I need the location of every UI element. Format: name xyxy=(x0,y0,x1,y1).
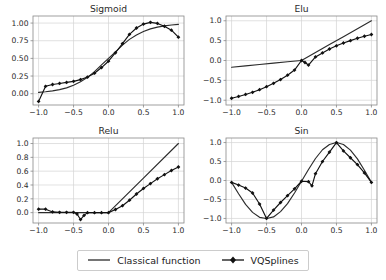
x-tick-label: 0.5 xyxy=(137,226,149,235)
x-tick-label: −1.0 xyxy=(29,108,48,117)
legend-label-classical: Classical function xyxy=(117,255,200,266)
y-tick-label: 0.00 xyxy=(12,89,29,98)
legend-line-marker-icon xyxy=(221,255,245,265)
legend-entry-classical: Classical function xyxy=(87,255,200,266)
y-tick-label: 0.0 xyxy=(209,56,221,65)
subplot-sigmoid: −1.0−0.50.00.51.00.000.250.500.751.00Sig… xyxy=(0,0,193,122)
y-tick-label: 0.0 xyxy=(209,176,221,185)
x-tick-label: 1.0 xyxy=(365,108,377,117)
x-tick-label: 0.0 xyxy=(295,226,307,235)
y-tick-label: 0.5 xyxy=(209,157,221,166)
x-tick-label: −1.0 xyxy=(29,226,48,235)
y-tick-label: 0.25 xyxy=(12,72,29,81)
subplot-title: Relu xyxy=(99,125,119,136)
y-tick-label: 0.75 xyxy=(12,36,29,45)
x-tick-label: 1.0 xyxy=(172,108,184,117)
y-tick-label: 1.0 xyxy=(16,139,28,148)
x-tick-label: −1.0 xyxy=(222,108,241,117)
x-tick-label: 1.0 xyxy=(365,226,377,235)
x-tick-label: −0.5 xyxy=(257,226,276,235)
y-tick-label: 0.8 xyxy=(16,153,28,162)
figure-legend: Classical function VQSplines xyxy=(0,240,386,280)
subplot-title: Elu xyxy=(294,3,308,14)
y-tick-label: 0.0 xyxy=(16,208,28,217)
x-tick-label: 0.5 xyxy=(330,226,342,235)
y-tick-label: 0.6 xyxy=(16,167,28,176)
legend-box: Classical function VQSplines xyxy=(77,250,308,271)
subplot-title: Sigmoid xyxy=(90,3,127,14)
legend-entry-vqsplines: VQSplines xyxy=(221,255,299,266)
subplot-grid: −1.0−0.50.00.51.00.000.250.500.751.00Sig… xyxy=(0,0,386,240)
y-tick-label: 0.5 xyxy=(209,36,221,45)
subplot-sin: −1.0−0.50.00.51.0−1.0−0.50.00.51.0Sin xyxy=(193,122,386,240)
y-tick-label: −1.0 xyxy=(203,214,222,223)
y-tick-label: 1.0 xyxy=(209,138,221,147)
legend-line-icon xyxy=(87,255,111,265)
x-tick-label: −0.5 xyxy=(64,226,83,235)
y-tick-label: 0.2 xyxy=(16,195,28,204)
y-tick-label: 1.00 xyxy=(12,19,29,28)
x-tick-label: 0.5 xyxy=(137,108,149,117)
x-tick-label: −1.0 xyxy=(222,226,241,235)
legend-label-vqsplines: VQSplines xyxy=(251,255,299,266)
y-tick-label: 0.50 xyxy=(12,54,29,63)
subplot-title: Sin xyxy=(294,125,308,136)
figure-canvas: −1.0−0.50.00.51.00.000.250.500.751.00Sig… xyxy=(0,0,386,280)
x-tick-label: 0.0 xyxy=(295,108,307,117)
x-tick-label: 0.0 xyxy=(102,226,114,235)
y-tick-label: 1.0 xyxy=(209,16,221,25)
x-tick-label: 0.0 xyxy=(102,108,114,117)
y-tick-label: 0.4 xyxy=(16,181,28,190)
x-tick-label: −0.5 xyxy=(257,108,276,117)
y-tick-label: −0.5 xyxy=(203,76,222,85)
x-tick-label: 1.0 xyxy=(172,226,184,235)
subplot-relu: −1.0−0.50.00.51.00.00.20.40.60.81.0Relu xyxy=(0,122,193,240)
y-tick-label: −1.0 xyxy=(203,96,222,105)
y-tick-label: −0.5 xyxy=(203,195,222,204)
x-tick-label: −0.5 xyxy=(64,108,83,117)
subplot-elu: −1.0−0.50.00.51.0−1.0−0.50.00.51.0Elu xyxy=(193,0,386,122)
x-tick-label: 0.5 xyxy=(330,108,342,117)
